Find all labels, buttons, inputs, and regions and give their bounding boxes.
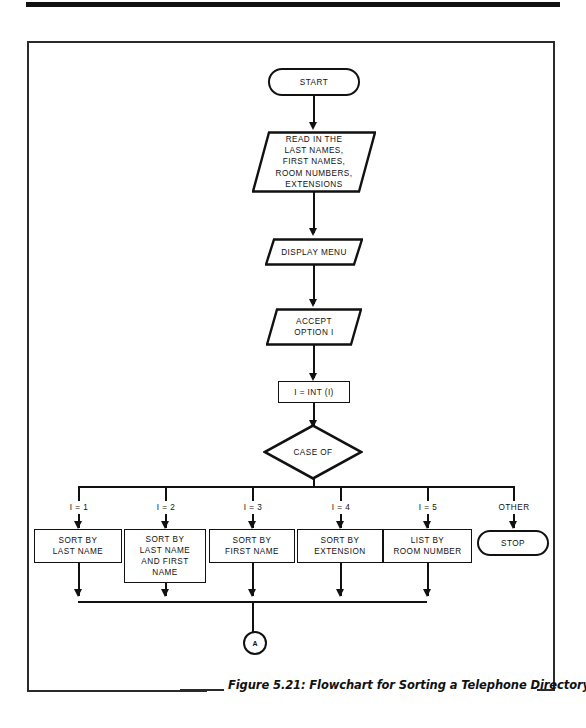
node-sort1-line-2: LAST NAME — [53, 546, 103, 557]
node-sort4-line-2: EXTENSION — [314, 546, 365, 557]
node-stop-label: STOP — [499, 538, 527, 549]
node-sort-first-name: SORT BY FIRST NAME — [209, 529, 295, 563]
node-read-line-3: FIRST NAMES, — [276, 156, 353, 167]
node-read-line-1: READ IN THE — [276, 134, 353, 145]
node-read-line-2: LAST NAMES, — [276, 145, 353, 156]
collect-arrow-2 — [161, 589, 169, 597]
node-accept-option: ACCEPT OPTION I — [266, 308, 362, 346]
branch-arrow-head-5 — [423, 521, 431, 529]
node-sort-extension-label: SORT BY EXTENSION — [312, 535, 367, 557]
branch-stub-2 — [165, 486, 167, 501]
node-sort-last-and-first-name-label: SORT BY LAST NAME AND FIRST NAME — [138, 534, 192, 578]
node-read-line-4: ROOM NUMBERS, — [276, 168, 353, 179]
case-distribution-bus — [78, 486, 514, 488]
node-sort-last-and-first-name: SORT BY LAST NAME AND FIRST NAME — [124, 529, 206, 583]
node-read-input-label: READ IN THE LAST NAMES, FIRST NAMES, ROO… — [274, 134, 355, 190]
edge-bus-connector-line — [252, 601, 254, 634]
branch-arrow-head-1 — [74, 521, 82, 529]
node-sort3-line-1: SORT BY — [225, 535, 279, 546]
node-sort1-line-1: SORT BY — [53, 535, 103, 546]
branch-label-3: I = 3 — [223, 503, 283, 512]
node-int-assignment-label: I = INT (I) — [292, 387, 336, 398]
branch-stub-6 — [513, 486, 515, 501]
collect-arrow-5 — [423, 589, 431, 597]
node-display-menu: DISPLAY MENU — [265, 238, 363, 266]
figure-frame-top — [27, 41, 555, 43]
edge-read-menu-arrow — [309, 228, 317, 236]
node-sort3-line-2: FIRST NAME — [225, 546, 279, 557]
node-sort4-line-1: SORT BY — [314, 535, 365, 546]
node-sort2-line-4: NAME — [140, 567, 190, 578]
collect-arrow-1 — [74, 589, 82, 597]
branch-arrow-head-6 — [509, 521, 517, 529]
node-start-label: START — [298, 77, 330, 88]
figure-frame-left — [27, 41, 29, 692]
collect-arrow-4 — [336, 589, 344, 597]
branch-label-6: OTHER — [484, 503, 544, 512]
figure-frame-right — [553, 41, 555, 689]
branch-arrow-head-4 — [336, 521, 344, 529]
caption-rule-left — [180, 689, 224, 691]
node-read-line-5: EXTENSIONS — [276, 179, 353, 190]
node-accept-option-label: ACCEPT OPTION I — [292, 316, 336, 338]
connector-a-label: A — [252, 640, 257, 647]
figure-caption: Figure 5.21: Flowchart for Sorting a Tel… — [228, 678, 536, 692]
node-accept-line-1: ACCEPT — [294, 316, 334, 327]
collect-arrow-3 — [248, 589, 256, 597]
node-sort-last-name-label: SORT BY LAST NAME — [51, 535, 105, 557]
node-list-room-number: LIST BY ROOM NUMBER — [383, 529, 472, 563]
page-top-rule — [26, 2, 560, 7]
node-display-menu-label: DISPLAY MENU — [279, 247, 349, 258]
branch-stub-5 — [427, 486, 429, 501]
node-sort-last-name: SORT BY LAST NAME — [34, 529, 122, 563]
node-start: START — [268, 68, 360, 96]
node-sort2-line-2: LAST NAME — [140, 545, 190, 556]
node-accept-line-2: OPTION I — [294, 327, 334, 338]
node-sort2-line-3: AND FIRST — [140, 556, 190, 567]
node-list5-line-1: LIST BY — [393, 535, 461, 546]
connector-a: A — [243, 631, 267, 655]
edge-read-menu-line — [313, 192, 315, 233]
node-case-of: CASE OF — [263, 424, 363, 480]
node-int-assignment: I = INT (I) — [278, 381, 350, 403]
node-stop: STOP — [477, 530, 549, 556]
branch-label-5: I = 5 — [398, 503, 458, 512]
node-read-input: READ IN THE LAST NAMES, FIRST NAMES, ROO… — [252, 131, 376, 193]
branch-stub-4 — [340, 486, 342, 501]
branch-label-2: I = 2 — [136, 503, 196, 512]
node-list-room-number-label: LIST BY ROOM NUMBER — [391, 535, 463, 557]
branch-label-1: I = 1 — [49, 503, 109, 512]
branch-stub-1 — [78, 486, 80, 501]
figure-page: START READ IN THE LAST NAMES, FIRST NAME… — [0, 0, 586, 728]
branch-label-4: I = 4 — [311, 503, 371, 512]
edge-accept-int-arrow — [309, 373, 317, 381]
branch-arrow-head-2 — [161, 521, 169, 529]
edge-start-read-arrow — [309, 122, 317, 130]
node-sort-first-name-label: SORT BY FIRST NAME — [223, 535, 281, 557]
node-case-of-label: CASE OF — [291, 447, 334, 458]
branch-stub-3 — [252, 486, 254, 501]
node-list5-line-2: ROOM NUMBER — [393, 546, 461, 557]
node-sort2-line-1: SORT BY — [140, 534, 190, 545]
branch-arrow-head-3 — [248, 521, 256, 529]
node-sort-extension: SORT BY EXTENSION — [297, 529, 383, 563]
edge-menu-accept-arrow — [309, 299, 317, 307]
